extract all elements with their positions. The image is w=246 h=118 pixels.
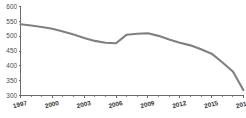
y-axis-tick-label: 550 (6, 18, 17, 25)
y-axis-tick-label: 450 (6, 47, 17, 54)
line-chart: 300350400450500550600 199720002003200620… (0, 0, 246, 118)
y-axis-tick-label: 400 (6, 62, 17, 69)
y-axis-tick-label: 300 (6, 92, 17, 99)
y-axis-tick-label: 600 (6, 3, 17, 10)
y-axis-tick-label: 500 (6, 32, 17, 39)
chart-plot-area: 300350400450500550600 199720002003200620… (0, 0, 246, 118)
y-axis-tick-label: 350 (6, 77, 17, 84)
